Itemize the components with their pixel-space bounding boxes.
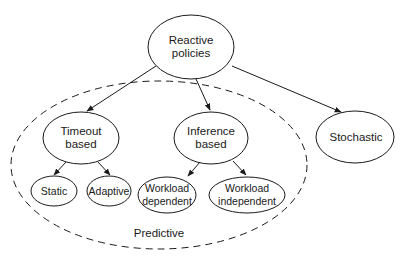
label-static: Static [41,185,67,198]
label-workload-independent: Workload independent [218,182,276,208]
label-inference-based: Inference based [187,125,235,151]
label-predictive-group: Predictive [134,227,185,240]
label-adaptive: Adaptive [89,185,130,198]
label-workload-dependent: Workload dependent [142,182,192,208]
label-line: dependent [142,195,192,208]
edge-timeout-to-static [54,162,66,175]
label-line: Static [41,185,67,198]
label-line: policies [169,47,214,60]
label-line: Workload [142,182,192,195]
edge-inference-to-workload-independent [233,161,246,175]
label-line: Inference [187,125,235,138]
label-line: Stochastic [329,131,382,144]
label-line: Timeout [60,125,101,138]
edge-reactive-to-stochastic [232,66,341,112]
label-timeout-based: Timeout based [60,125,101,151]
predictive-group-boundary [11,81,307,249]
label-line: Adaptive [89,185,130,198]
label-stochastic: Stochastic [329,131,382,144]
edge-inference-to-workload-dependent [188,162,200,176]
label-line: based [187,138,235,151]
label-reactive-policies: Reactive policies [169,34,214,60]
edge-reactive-to-inference [196,79,210,110]
label-line: independent [218,195,276,208]
edge-timeout-to-adaptive [98,162,110,175]
label-line: based [60,138,101,151]
label-line: Workload [218,182,276,195]
label-line: Reactive [169,34,214,47]
